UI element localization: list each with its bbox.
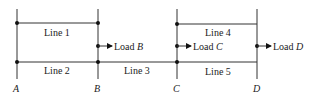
- load-c-label: Load C: [193, 41, 223, 52]
- bus-a-label: A: [12, 83, 20, 94]
- line-5-label: Line 5: [205, 66, 231, 77]
- line-2-label: Line 2: [44, 65, 70, 76]
- line-1-node-b: [96, 21, 100, 25]
- bus-b-label: B: [94, 83, 100, 94]
- line-2-node-a: [15, 60, 19, 64]
- bus-d-label: D: [252, 83, 261, 94]
- load-d-label: Load D: [273, 41, 304, 52]
- line-5-node-c: [175, 60, 179, 64]
- line-2-node-b: [96, 60, 100, 64]
- load-b-label: Load B: [114, 41, 143, 52]
- line-4-label: Line 4: [205, 27, 231, 38]
- line-1-label: Line 1: [44, 27, 70, 38]
- power-network-diagram: Line 1 Line 2 Line 3 Line 5 Line 4 Load …: [0, 0, 315, 99]
- bus-c-label: C: [173, 83, 180, 94]
- line-4-node-c: [175, 22, 179, 26]
- line-3-label: Line 3: [124, 65, 150, 76]
- line-1-node-a: [15, 21, 19, 25]
